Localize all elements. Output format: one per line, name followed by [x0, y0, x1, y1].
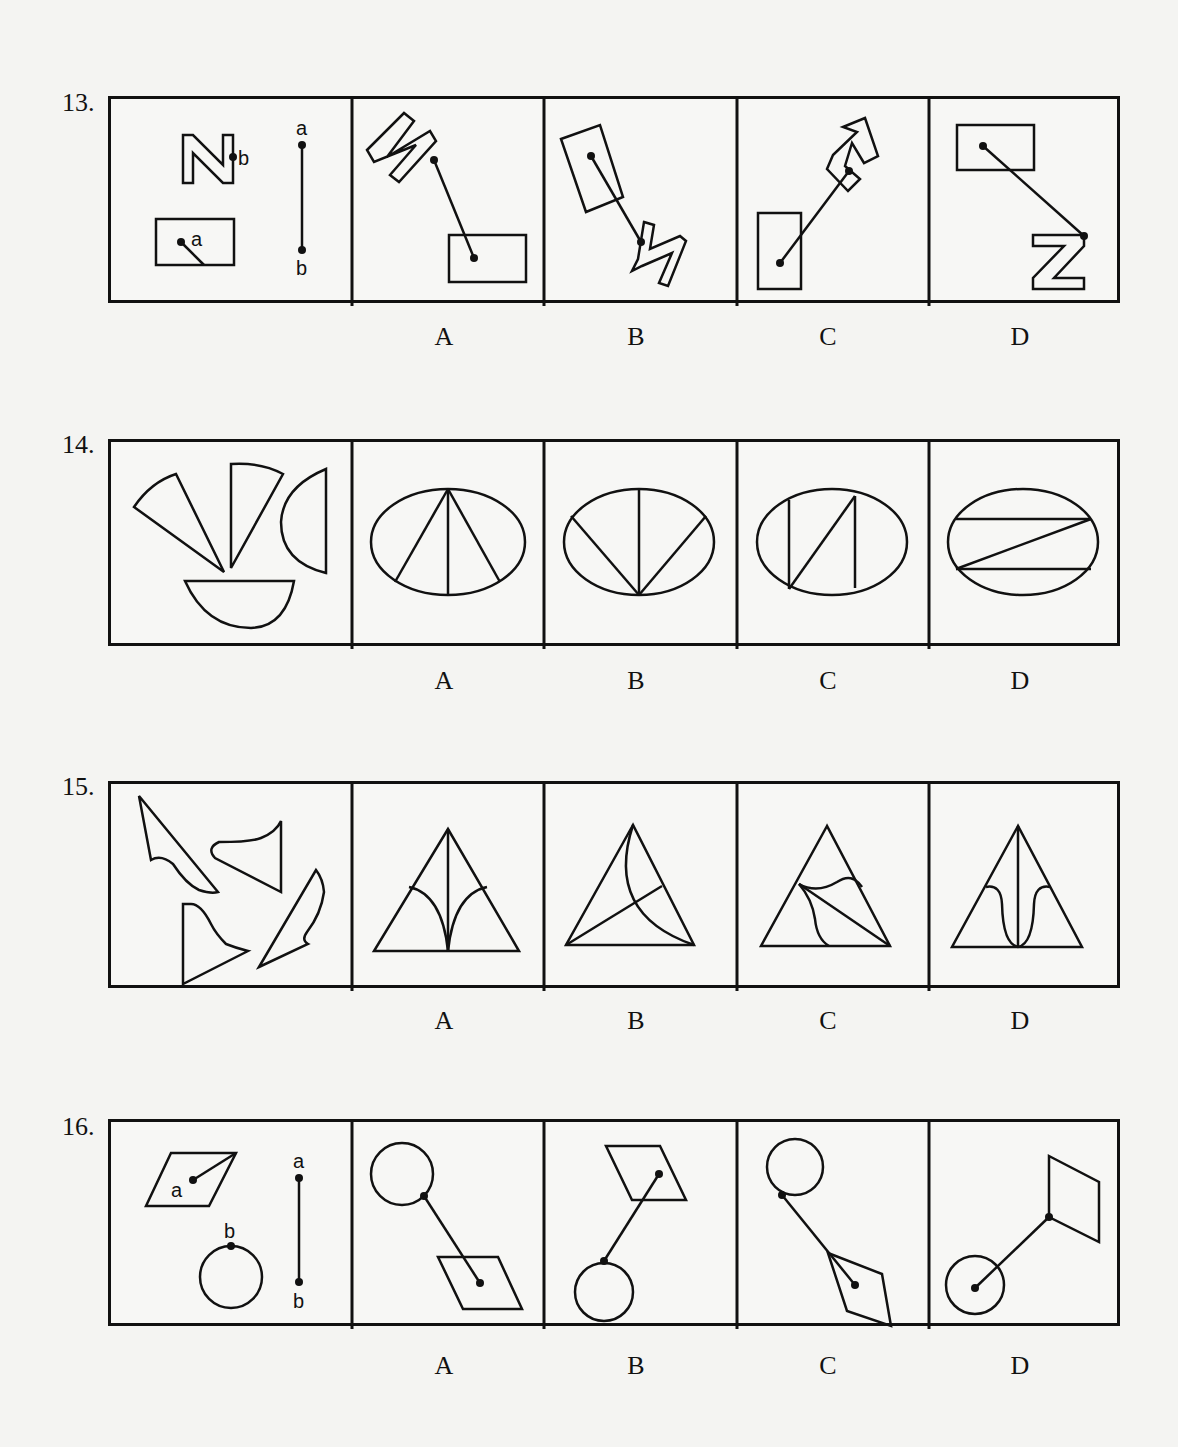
q13-option-b-figure — [561, 125, 686, 286]
q16-option-b[interactable]: B — [616, 1351, 656, 1381]
svg-text:b: b — [238, 147, 249, 169]
question-16-figure-row: a b a b — [108, 1119, 1120, 1326]
svg-text:a: a — [293, 1150, 305, 1172]
q14-option-c[interactable]: C — [808, 666, 848, 696]
question-number-16: 16. — [62, 1112, 95, 1142]
q15-option-a-figure — [374, 829, 519, 951]
question-13-option-labels: A B C D — [0, 322, 1178, 352]
q16-stimulus: a b a b — [146, 1150, 305, 1312]
q15-option-b-figure — [566, 825, 694, 945]
q16-option-d-figure — [946, 1156, 1099, 1314]
q16-option-c-figure — [767, 1139, 891, 1326]
question-14-option-labels: A B C D — [0, 666, 1178, 696]
q15-option-c-figure — [761, 826, 890, 946]
question-14-figure-row — [108, 439, 1120, 646]
question-number-14: 14. — [62, 430, 95, 460]
question-number-13: 13. — [62, 88, 95, 118]
question-number-15: 15. — [62, 772, 95, 802]
question-15-option-labels: A B C D — [0, 1006, 1178, 1036]
svg-text:b: b — [296, 257, 307, 279]
q16-option-b-figure — [575, 1146, 686, 1321]
q13-option-b[interactable]: B — [616, 322, 656, 352]
q16-option-d[interactable]: D — [1000, 1351, 1040, 1381]
q16-option-a-figure — [371, 1143, 522, 1309]
question-15-figure-row — [108, 781, 1120, 988]
q13-option-a-figure — [367, 113, 526, 282]
q15-option-d[interactable]: D — [1000, 1006, 1040, 1036]
svg-text:a: a — [296, 117, 308, 139]
q13-option-c[interactable]: C — [808, 322, 848, 352]
q14-option-a[interactable]: A — [424, 666, 464, 696]
q13-option-a[interactable]: A — [424, 322, 464, 352]
svg-text:a: a — [171, 1179, 183, 1201]
q14-stimulus — [134, 464, 326, 628]
q14-option-d-figure — [948, 489, 1098, 595]
q14-option-b[interactable]: B — [616, 666, 656, 696]
q14-option-c-figure — [757, 489, 907, 595]
q15-option-b[interactable]: B — [616, 1006, 656, 1036]
q16-option-a[interactable]: A — [424, 1351, 464, 1381]
q15-option-a[interactable]: A — [424, 1006, 464, 1036]
q16-option-c[interactable]: C — [808, 1351, 848, 1381]
q15-option-d-figure — [952, 826, 1082, 947]
q14-option-d[interactable]: D — [1000, 666, 1040, 696]
q14-option-a-figure — [371, 489, 525, 595]
q13-stimulus: b a a b — [156, 117, 308, 279]
question-13-figure-row: b a a b — [108, 96, 1120, 303]
q14-option-b-figure — [564, 489, 714, 595]
q13-option-c-figure — [758, 118, 878, 289]
svg-text:a: a — [191, 228, 203, 250]
svg-text:b: b — [224, 1220, 235, 1242]
question-16-option-labels: A B C D — [0, 1351, 1178, 1381]
svg-text:b: b — [293, 1290, 304, 1312]
q15-stimulus — [139, 796, 324, 984]
q13-option-d[interactable]: D — [1000, 322, 1040, 352]
q13-option-d-figure — [957, 125, 1088, 289]
q15-option-c[interactable]: C — [808, 1006, 848, 1036]
